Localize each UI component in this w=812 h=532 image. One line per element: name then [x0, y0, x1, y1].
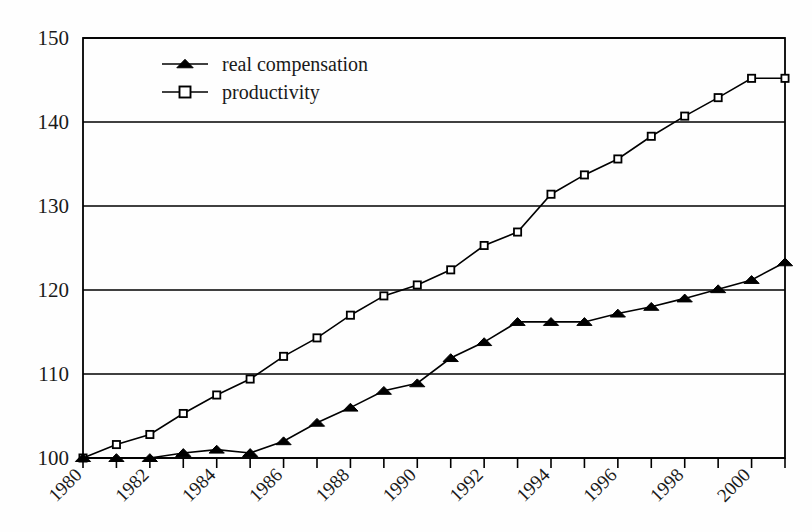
productivity-marker	[781, 75, 788, 82]
productivity-marker	[280, 353, 287, 360]
legend-label: real compensation	[222, 53, 368, 76]
y-tick-label: 140	[38, 110, 70, 134]
y-tick-label: 120	[38, 278, 70, 302]
productivity-marker	[180, 410, 187, 417]
productivity-marker	[581, 171, 588, 178]
productivity-marker	[213, 391, 220, 398]
line-chart: 100110120130140150 198019821984198619881…	[0, 0, 812, 532]
productivity-marker	[547, 191, 554, 198]
productivity-marker	[113, 441, 120, 448]
legend-marker-open-square-icon	[180, 87, 191, 98]
y-tick-label: 130	[38, 194, 70, 218]
productivity-marker	[313, 334, 320, 341]
productivity-marker	[715, 94, 722, 101]
y-tick-label: 150	[38, 26, 70, 50]
productivity-marker	[648, 133, 655, 140]
productivity-marker	[447, 266, 454, 273]
productivity-marker	[681, 113, 688, 120]
y-tick-label: 100	[38, 446, 70, 470]
y-tick-label: 110	[38, 362, 69, 386]
legend-label: productivity	[222, 81, 320, 104]
productivity-marker	[380, 292, 387, 299]
chart-background	[0, 0, 812, 532]
productivity-marker	[146, 431, 153, 438]
productivity-marker	[247, 375, 254, 382]
chart-container: 100110120130140150 198019821984198619881…	[0, 0, 812, 532]
productivity-marker	[481, 242, 488, 249]
productivity-marker	[748, 75, 755, 82]
productivity-marker	[414, 281, 421, 288]
productivity-marker	[347, 312, 354, 319]
productivity-marker	[614, 155, 621, 162]
productivity-marker	[514, 228, 521, 235]
